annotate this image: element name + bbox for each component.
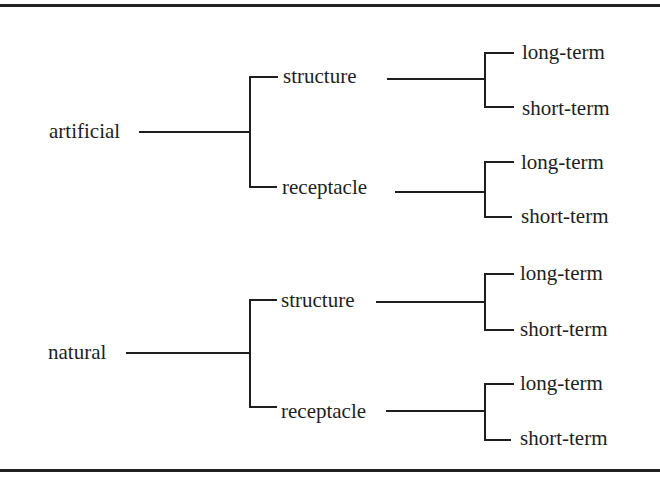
node-natural-receptacle-short-term: short-term xyxy=(520,426,607,450)
node-artificial-structure-long-term: long-term xyxy=(522,40,605,64)
node-artificial-receptacle-short-term: short-term xyxy=(521,204,608,228)
node-artificial-receptacle: receptacle xyxy=(282,175,367,199)
node-artificial-structure-short-term: short-term xyxy=(522,96,609,120)
node-natural-receptacle-long-term: long-term xyxy=(520,371,603,395)
node-natural-receptacle: receptacle xyxy=(281,399,366,423)
node-natural: natural xyxy=(48,340,106,364)
node-natural-structure: structure xyxy=(281,288,354,312)
node-natural-structure-short-term: short-term xyxy=(520,317,607,341)
node-artificial-receptacle-long-term: long-term xyxy=(521,150,604,174)
node-natural-structure-long-term: long-term xyxy=(520,261,603,285)
node-artificial-structure: structure xyxy=(283,64,356,88)
node-artificial: artificial xyxy=(49,119,120,143)
